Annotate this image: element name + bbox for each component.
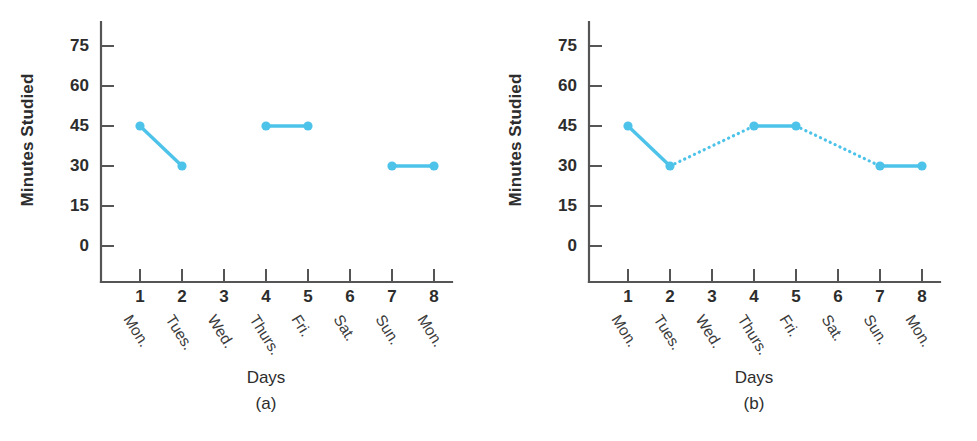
data-point-marker <box>917 161 926 170</box>
x-tick-label: 7 <box>867 288 893 305</box>
x-tick-label: 7 <box>379 288 405 305</box>
x-axis-title-a: Days <box>186 368 346 388</box>
panel-caption-a: (a) <box>206 394 326 414</box>
data-point-marker <box>665 161 674 170</box>
figure-two-panel-line-charts: Minutes Studied 015304560751Mon.2Tues.3W… <box>0 0 977 441</box>
x-tick-label: 4 <box>253 288 279 305</box>
y-tick-label: 0 <box>49 237 89 254</box>
x-tick-label: 6 <box>337 288 363 305</box>
x-tick-label: 2 <box>657 288 683 305</box>
x-tick-label: 1 <box>615 288 641 305</box>
data-point-marker <box>135 121 144 130</box>
data-segment-dotted <box>670 126 754 166</box>
y-tick-label: 15 <box>49 197 89 214</box>
data-point-marker <box>791 121 800 130</box>
y-tick-label: 60 <box>537 77 577 94</box>
data-point-marker <box>177 161 186 170</box>
data-point-marker <box>749 121 758 130</box>
data-point-marker <box>387 161 396 170</box>
data-point-marker <box>303 121 312 130</box>
data-segment-dotted <box>796 126 880 166</box>
x-tick-label: 3 <box>699 288 725 305</box>
y-tick-label: 30 <box>537 157 577 174</box>
panel-caption-b: (b) <box>694 394 814 414</box>
chart-panel-a: Minutes Studied 015304560751Mon.2Tues.3W… <box>0 0 489 441</box>
x-axis-title-b: Days <box>674 368 834 388</box>
x-tick-label: 4 <box>741 288 767 305</box>
page-footer-partial-text <box>0 433 977 441</box>
data-point-marker <box>429 161 438 170</box>
data-point-marker <box>875 161 884 170</box>
y-tick-label: 75 <box>537 37 577 54</box>
y-tick-label: 15 <box>537 197 577 214</box>
y-tick-label: 45 <box>537 117 577 134</box>
x-tick-label: 8 <box>421 288 447 305</box>
x-tick-label: 8 <box>909 288 935 305</box>
x-tick-label: 5 <box>295 288 321 305</box>
x-tick-label: 2 <box>169 288 195 305</box>
data-point-marker <box>261 121 270 130</box>
y-tick-label: 0 <box>537 237 577 254</box>
y-tick-label: 60 <box>49 77 89 94</box>
y-tick-label: 75 <box>49 37 89 54</box>
data-segment-solid <box>140 126 182 166</box>
chart-panel-b: Minutes Studied 015304560751Mon.2Tues.3W… <box>488 0 977 441</box>
data-segment-solid <box>628 126 670 166</box>
x-tick-label: 1 <box>127 288 153 305</box>
x-tick-label: 5 <box>783 288 809 305</box>
x-tick-label: 3 <box>211 288 237 305</box>
y-tick-label: 45 <box>49 117 89 134</box>
data-point-marker <box>623 121 632 130</box>
y-tick-label: 30 <box>49 157 89 174</box>
x-tick-label: 6 <box>825 288 851 305</box>
